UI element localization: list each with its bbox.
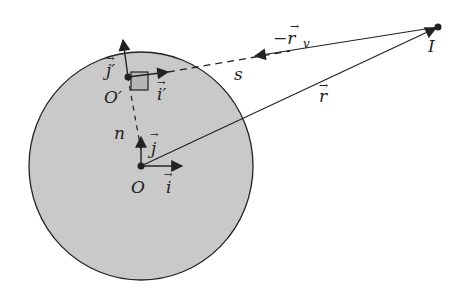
- label-I: I: [427, 36, 435, 56]
- label-O: O: [131, 177, 145, 197]
- label-rv-subscript: v: [303, 37, 310, 51]
- label-j-arrow: →: [150, 129, 159, 140]
- label-j-prime-arrow: →: [106, 53, 115, 64]
- label-i-prime-arrow: →: [157, 77, 166, 88]
- label-i-arrow: →: [164, 169, 173, 180]
- label-r-arrow: →: [319, 79, 328, 92]
- label-s: s: [234, 64, 243, 84]
- O-prime-point: [125, 74, 132, 81]
- label-n: n: [114, 123, 125, 143]
- label-i: i: [166, 177, 171, 197]
- label-minus-rv-arrow: →: [290, 20, 299, 33]
- I-point: [435, 24, 442, 31]
- diagram-canvas: I −r → v r → s j′ → O′ i′ → n j → O i →: [0, 0, 467, 302]
- label-O-prime: O′: [104, 87, 122, 107]
